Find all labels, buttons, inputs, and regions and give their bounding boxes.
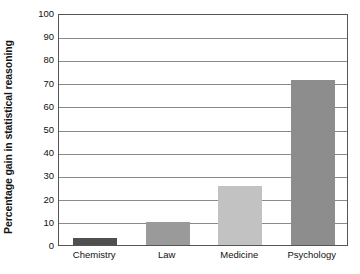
y-tick-label: 50 bbox=[14, 125, 54, 135]
y-tick-label: 70 bbox=[14, 79, 54, 89]
y-tick-label: 20 bbox=[14, 195, 54, 205]
x-tick-label-chemistry: Chemistry bbox=[73, 250, 116, 260]
bar-medicine bbox=[218, 186, 262, 245]
bar-chart-figure: Percentage gain in statistical reasoning… bbox=[0, 0, 360, 274]
x-tick-label-law: Law bbox=[158, 250, 175, 260]
y-tick-label: 100 bbox=[14, 9, 54, 19]
x-tick-label-psychology: Psychology bbox=[287, 250, 336, 260]
y-tick-label: 60 bbox=[14, 102, 54, 112]
y-tick-label: 90 bbox=[14, 32, 54, 42]
y-tick-label: 0 bbox=[14, 241, 54, 251]
y-tick-label: 10 bbox=[14, 218, 54, 228]
y-tick-label: 30 bbox=[14, 172, 54, 182]
y-tick-label: 40 bbox=[14, 148, 54, 158]
x-tick-label-medicine: Medicine bbox=[220, 250, 258, 260]
gridline bbox=[59, 38, 347, 39]
bar-psychology bbox=[291, 80, 335, 245]
gridline bbox=[59, 61, 347, 62]
y-tick-label: 80 bbox=[14, 56, 54, 66]
bar-chemistry bbox=[73, 238, 117, 245]
plot-area bbox=[58, 14, 348, 246]
bar-law bbox=[146, 222, 190, 245]
